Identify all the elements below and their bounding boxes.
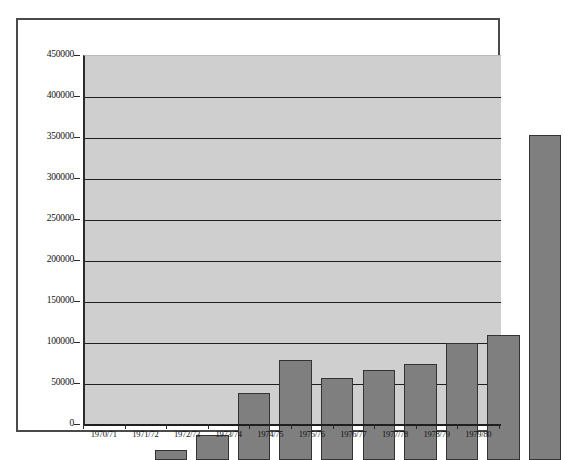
y-axis-tick-label: 0 xyxy=(26,418,74,428)
y-axis-tick xyxy=(74,219,80,220)
x-axis-tick-label: 1977/78 xyxy=(374,429,416,439)
y-axis-tick xyxy=(74,178,80,179)
y-axis-tick xyxy=(74,260,80,261)
y-axis-tick xyxy=(74,424,80,425)
x-axis-tick-label: 1971/72 xyxy=(125,429,167,439)
chart-frame: 4500004000003500003000002500002000001500… xyxy=(16,18,500,432)
y-axis-tick-label: 50000 xyxy=(26,377,74,387)
y-axis-tick-label: 150000 xyxy=(26,295,74,305)
x-axis-tick-label: 1974/75 xyxy=(249,429,291,439)
bar xyxy=(529,135,561,460)
x-axis-tick-label: 1970/71 xyxy=(83,429,125,439)
y-axis-tick xyxy=(74,342,80,343)
y-axis-tick-label: 350000 xyxy=(26,131,74,141)
x-axis-tick-label: 1978/79 xyxy=(416,429,458,439)
plot-area xyxy=(83,55,501,425)
x-axis-tick-label: 1973/74 xyxy=(208,429,250,439)
y-axis-tick xyxy=(74,301,80,302)
bars-layer xyxy=(150,91,565,460)
figure-caption xyxy=(22,441,482,452)
y-axis-tick-labels: 4500004000003500003000002500002000001500… xyxy=(18,55,74,424)
x-axis-tick-label: 1979/80 xyxy=(457,429,499,439)
y-axis-tick-label: 200000 xyxy=(26,254,74,264)
x-axis-tick-label: 1975/76 xyxy=(291,429,333,439)
y-axis-tick-label: 450000 xyxy=(26,49,74,59)
y-axis-tick xyxy=(74,55,80,56)
x-axis-tick-label: 1976/77 xyxy=(333,429,375,439)
y-axis-tick-label: 100000 xyxy=(26,336,74,346)
y-axis-tick xyxy=(74,383,80,384)
y-axis-tick-label: 300000 xyxy=(26,172,74,182)
y-axis-tick-label: 250000 xyxy=(26,213,74,223)
x-axis-tick-label: 1972/73 xyxy=(166,429,208,439)
y-axis-tick-label: 400000 xyxy=(26,90,74,100)
x-axis-tick xyxy=(499,424,500,429)
y-axis-tick xyxy=(74,96,80,97)
y-axis-tick xyxy=(74,137,80,138)
